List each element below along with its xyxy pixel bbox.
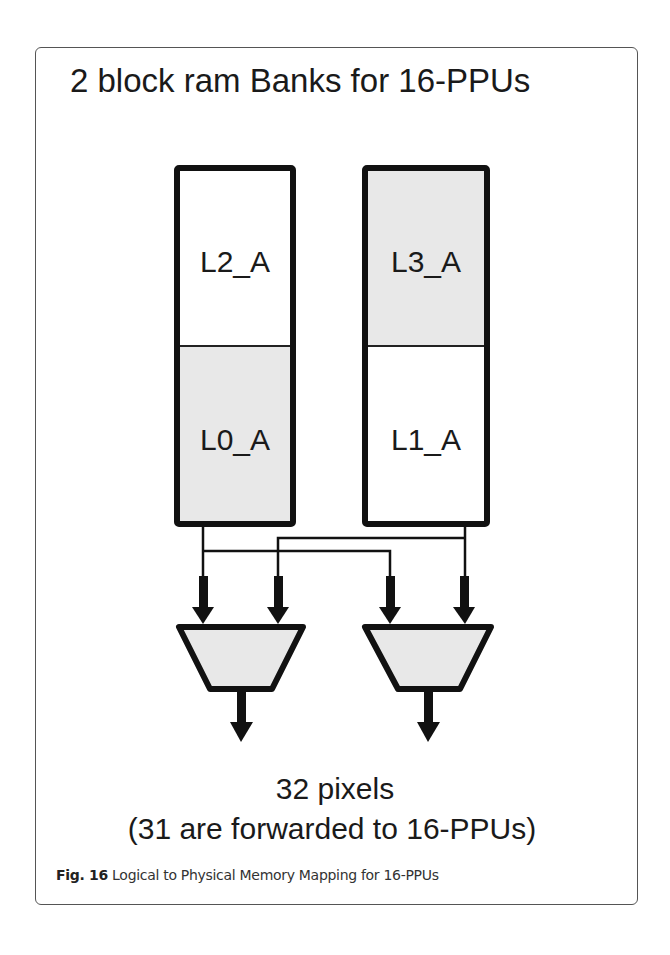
caption-label: Fig. 16: [56, 867, 108, 883]
output-note: (31 are forwarded to 16-PPUs): [62, 812, 602, 846]
figure-caption: Fig. 16 Logical to Physical Memory Mappi…: [56, 867, 439, 883]
label-l1-a: L1_A: [391, 423, 461, 456]
label-l2-a: L2_A: [200, 245, 270, 278]
caption-text: Logical to Physical Memory Mapping for 1…: [108, 867, 439, 883]
label-l3-a: L3_A: [391, 245, 461, 278]
output-description: 32 pixels: [0, 772, 670, 806]
input-arrows: [192, 576, 475, 624]
right-bank: L3_A L1_A: [365, 168, 487, 524]
output-arrows: [230, 690, 440, 742]
left-bank: L2_A L0_A: [177, 168, 293, 524]
mux-right: [365, 627, 491, 689]
wires: [203, 527, 465, 577]
mux-left: [179, 627, 303, 689]
label-l0-a: L0_A: [200, 423, 270, 456]
